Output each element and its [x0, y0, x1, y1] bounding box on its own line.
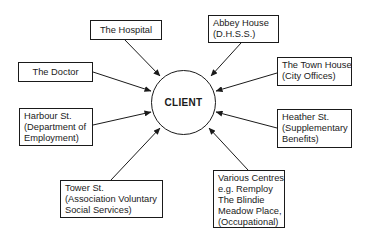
node-town-house: The Town House (City Offices): [277, 57, 352, 86]
arrow-abbey-house: [211, 43, 241, 76]
node-town-house-line-2: (City Offices): [282, 71, 347, 82]
arrow-various-centres: [209, 128, 248, 170]
node-hospital: The Hospital: [90, 20, 162, 40]
node-various-centres-line-1: Various Centres: [218, 173, 280, 184]
node-various-centres-line-5: (Occupational): [218, 217, 280, 228]
node-doctor: The Doctor: [18, 62, 93, 82]
node-tower-st-line-1: Tower St.: [65, 183, 158, 194]
arrow-town-house: [216, 73, 277, 91]
node-abbey-house-line-1: Abbey House: [213, 18, 274, 29]
node-tower-st: Tower St. (Association Voluntary Social …: [60, 180, 163, 218]
node-tower-st-line-2: (Association Voluntary: [65, 194, 158, 205]
arrow-heather-st: [216, 112, 277, 128]
node-abbey-house-line-2: (D.H.S.S.): [213, 29, 274, 40]
node-various-centres-line-4: Meadow Place,: [218, 206, 280, 217]
arrow-harbour-st: [93, 112, 151, 125]
arrow-doctor: [93, 72, 151, 91]
node-harbour-st-line-2: (Department of: [24, 122, 88, 133]
node-harbour-st: Harbour St. (Department of Employment): [19, 108, 93, 146]
node-doctor-text: The Doctor: [33, 67, 79, 78]
node-abbey-house: Abbey House (D.H.S.S.): [208, 15, 279, 43]
client-node: CLIENT: [151, 70, 216, 135]
node-various-centres: Various Centres e.g. Remploy The Blindie…: [213, 170, 285, 228]
arrow-hospital: [124, 39, 160, 76]
client-label: CLIENT: [165, 97, 203, 108]
node-various-centres-line-2: e.g. Remploy: [218, 184, 280, 195]
node-hospital-text: The Hospital: [100, 25, 152, 36]
node-heather-st-line-1: Heather St.: [282, 112, 347, 123]
node-harbour-st-line-3: Employment): [24, 133, 88, 144]
node-tower-st-line-3: Social Services): [65, 205, 158, 216]
arrow-tower-st: [111, 128, 160, 180]
node-heather-st: Heather St. (Supplementary Benefits): [277, 109, 352, 148]
client-services-diagram: CLIENT The Hospital Abbey House (D.H.S.S…: [0, 0, 367, 237]
node-harbour-st-line-1: Harbour St.: [24, 111, 88, 122]
node-town-house-line-1: The Town House: [282, 60, 347, 71]
node-heather-st-line-2: (Supplementary: [282, 123, 347, 134]
node-heather-st-line-3: Benefits): [282, 134, 347, 145]
node-various-centres-line-3: The Blindie: [218, 195, 280, 206]
